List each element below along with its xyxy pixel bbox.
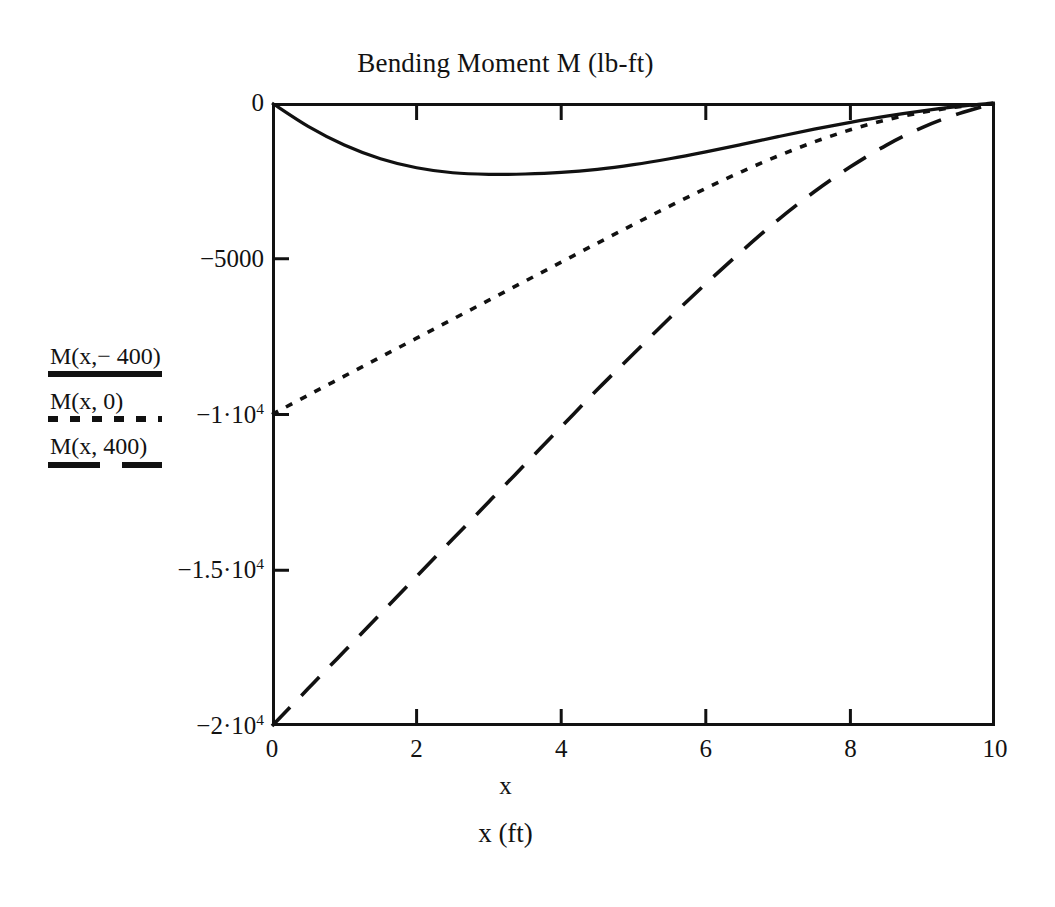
page-title: Bending Moment M (lb-ft)	[0, 48, 1033, 79]
legend-line-sample-dashed	[46, 460, 164, 470]
legend-entry: M(x, 0)	[46, 389, 236, 424]
series-curve-1	[272, 103, 995, 415]
legend-line-sample-dotted	[46, 414, 164, 424]
legend-label: M(x, 0)	[46, 389, 236, 414]
legend: M(x,− 400)M(x, 0)M(x, 400)	[46, 344, 236, 480]
x-tick-label: 6	[666, 736, 746, 761]
legend-label: M(x, 400)	[46, 434, 236, 459]
legend-entry: M(x,− 400)	[46, 344, 236, 379]
series-curve-2	[272, 103, 995, 726]
y-tick-label: −5000	[200, 246, 264, 271]
legend-line-sample-solid	[46, 369, 164, 379]
x-axis-label: x	[0, 772, 1033, 800]
x-tick-label: 4	[521, 736, 601, 761]
y-tick-label: 0	[252, 90, 265, 115]
y-tick-label: −1.5·104	[178, 557, 264, 582]
legend-label: M(x,− 400)	[46, 344, 236, 369]
x-tick-label: 10	[955, 736, 1035, 761]
legend-entry: M(x, 400)	[46, 434, 236, 469]
series-curve-0	[272, 103, 995, 174]
x-tick-label: 2	[377, 736, 457, 761]
x-tick-label: 0	[232, 736, 312, 761]
plot-curves	[272, 103, 995, 726]
y-tick-label: −2·104	[196, 713, 264, 738]
x-tick-label: 8	[810, 736, 890, 761]
x-axis-units-label: x (ft)	[0, 818, 1033, 849]
